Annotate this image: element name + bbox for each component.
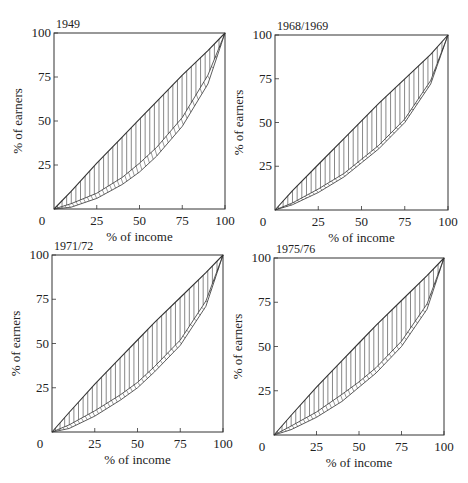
- chart-svg: 0255075100% of income255075100% of earne…: [0, 0, 468, 483]
- x-tick-label: 75: [395, 439, 408, 454]
- y-axis: 255075100% of earners: [230, 250, 278, 398]
- x-tick-label: 50: [353, 439, 366, 454]
- x-tick-label: 25: [310, 439, 323, 454]
- x-axis: 0255075100% of income: [259, 431, 454, 470]
- y-tick-label: 25: [258, 383, 271, 398]
- y-tick-label: 75: [258, 294, 271, 309]
- y-tick-label: 50: [258, 339, 271, 354]
- upper-curve: [274, 258, 444, 435]
- chart-panel-1975-76: 0255075100% of income255075100% of earne…: [0, 0, 468, 483]
- hatch-region: [277, 259, 442, 433]
- y-tick-label: 100: [252, 250, 272, 265]
- x-tick-label: 100: [434, 439, 454, 454]
- y-axis-label: % of earners: [230, 314, 245, 380]
- x-tick-label: 0: [259, 439, 266, 454]
- panel-title: 1975/76: [276, 242, 315, 256]
- x-axis-label: % of income: [326, 455, 393, 470]
